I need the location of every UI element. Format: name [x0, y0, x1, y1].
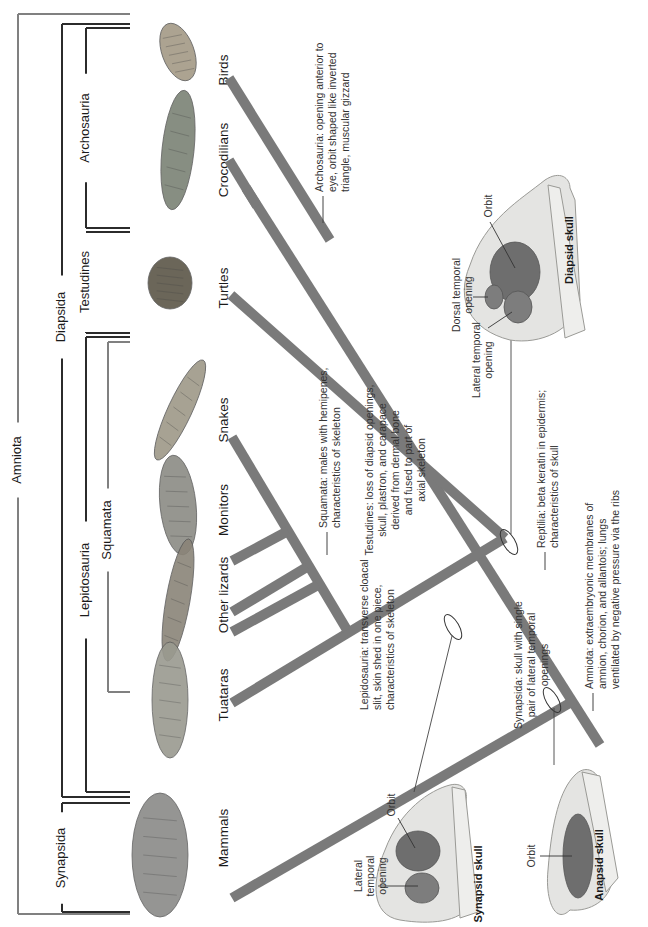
- lepidosauria-note: Lepidosauria: transverse cloacalslit, sk…: [358, 559, 396, 710]
- annotation-text: Amniota: extraembryonic membranes ofamni…: [583, 490, 621, 689]
- animal-body: [132, 793, 188, 917]
- animal-body: [146, 355, 214, 465]
- taxon-label-crocodilians: Crocodilians: [216, 123, 231, 198]
- diapsid-skull-title: Diapsid skull: [563, 216, 575, 284]
- annotation-line: skull, plastron, and carapace: [376, 403, 388, 537]
- annotation-line: openings: [538, 644, 550, 687]
- taxon-label-turtles: Turtles: [216, 267, 231, 308]
- skull-part-line: Orbit: [525, 845, 537, 868]
- skull-part-line: Dorsal temporal: [450, 258, 462, 332]
- bird-icon: [153, 18, 204, 85]
- skull-part-line: Orbit: [482, 195, 494, 218]
- lateral-temporal-label: Lateral temporalopening: [470, 322, 494, 398]
- skull-part-line: Lateral temporal: [470, 322, 482, 398]
- mammal-icon: [132, 793, 188, 917]
- taxon-label-mammals: Mammals: [216, 809, 231, 868]
- branch-croc-branch: [229, 160, 257, 206]
- synapsida-note: Synapsida: skull with singlepair of late…: [512, 601, 550, 729]
- taxon-labels: BirdsCrocodiliansTurtlesSnakesMonitorsOt…: [216, 54, 231, 867]
- orbit-label: Orbit: [385, 794, 397, 817]
- skull-part-line: Orbit: [385, 794, 397, 817]
- animal-body: [156, 89, 200, 212]
- annotation-line: Archosauria: opening anterior to: [313, 42, 325, 192]
- animal-illustrations: [132, 18, 214, 917]
- branch-lizard-branch-1: [232, 567, 307, 612]
- tuatara-icon: [152, 642, 188, 758]
- snake-icon: [146, 355, 214, 465]
- amniota-note: Amniota: extraembryonic membranes ofamni…: [583, 490, 621, 711]
- annotation-line: Lepidosauria: transverse cloacal: [358, 559, 370, 710]
- annotation-line: ventilated by negative pressure via the …: [609, 490, 621, 689]
- clade-label-squamata: Squamata: [99, 500, 114, 560]
- taxon-label-other-lizards: Other lizards: [216, 556, 231, 633]
- orbit-label: Orbit: [482, 195, 494, 218]
- turtle-icon: [148, 257, 192, 309]
- skull-part-line: Lateral: [352, 860, 364, 892]
- annotation-line: Synapsida: skull with single: [512, 601, 524, 729]
- anapsid-skull: OrbitAnapsid skull: [525, 770, 618, 915]
- clade-amniota: Amniota: [9, 14, 130, 914]
- annotation-line: derived from dermal bone: [389, 410, 401, 530]
- cladogram-figure: AmniotaSynapsidaDiapsidaArchosauriaTestu…: [0, 0, 648, 927]
- annotation-line: characteristics of skull: [548, 445, 560, 548]
- synapsida-node-marker: [441, 612, 465, 642]
- animal-body: [155, 453, 201, 556]
- annotation-line: characteristics of skeleton: [330, 407, 342, 528]
- clade-label-archosauria: Archosauria: [77, 93, 92, 163]
- annotation-line: slit, skin shed in one piece,: [371, 585, 383, 711]
- skull-part-line: opening: [482, 341, 494, 379]
- annotation-line: amnion, chorion, and allantois; lungs: [596, 519, 608, 689]
- testudines-note: Testudines: loss of diapsid openings,sku…: [363, 384, 427, 555]
- clade-label-testudines: Testudines: [77, 250, 92, 313]
- animal-body: [155, 537, 200, 663]
- taxon-label-monitors: Monitors: [216, 484, 231, 536]
- annotation-line: Amniota: extraembryonic membranes of: [583, 503, 595, 689]
- lateral-temporal-opening: [504, 291, 532, 323]
- annotation-text: Archosauria: opening anterior toeye, orb…: [313, 42, 351, 192]
- annotation-line: Testudines: loss of diapsid openings,: [363, 384, 375, 555]
- synapsid-skull: OrbitLateraltemporalopeningSynapsid skul…: [352, 784, 484, 922]
- archosauria-note: Archosauria: opening anterior toeye, orb…: [313, 42, 351, 223]
- annotation-text: Synapsida: skull with singlepair of late…: [512, 601, 550, 729]
- lateral-temporal-opening: [405, 873, 439, 903]
- diapsid-skull: OrbitDorsal temporalopeningLateral tempo…: [450, 175, 585, 398]
- cladogram-svg: AmniotaSynapsidaDiapsidaArchosauriaTestu…: [0, 0, 648, 927]
- reptilia-note: Reptilia: beta keratin in epidermis;char…: [535, 390, 560, 570]
- lateral-temporal-label: Lateraltemporalopening: [352, 856, 388, 897]
- annotation-line: eye, orbit shaped like inverted: [326, 52, 338, 192]
- clade-lepidosauria: Lepidosauria: [77, 337, 130, 792]
- annotation-line: Squamata: males with hemipenes,: [317, 368, 329, 529]
- annotation-line: axial skeleton: [415, 438, 427, 502]
- clade-label-synapsida: Synapsida: [53, 827, 68, 888]
- anapsid-skull-title: Anapsid skull: [593, 829, 605, 901]
- annotation-text: Lepidosauria: transverse cloacalslit, sk…: [358, 559, 396, 710]
- taxon-label-tuataras: Tuataras: [216, 668, 231, 721]
- clade-label-amniota: Amniota: [9, 435, 24, 483]
- clade-archosauria: Archosauria: [77, 28, 130, 228]
- clade-label-diapsida: Diapsida: [53, 291, 68, 342]
- animal-body: [153, 18, 204, 85]
- annotation-line: characteristics of skeleton: [384, 589, 396, 710]
- animal-body: [148, 257, 192, 309]
- skull-part-line: temporal: [364, 856, 376, 897]
- monitor-lizard-icon: [155, 453, 201, 556]
- taxon-label-snakes: Snakes: [216, 397, 231, 442]
- synapsid-skull-title: Synapsid skull: [472, 845, 484, 922]
- annotation-line: pair of lateral temporal: [525, 613, 537, 717]
- clade-brackets: AmniotaSynapsidaDiapsidaArchosauriaTestu…: [9, 14, 130, 914]
- annotation-line: and fused to part of: [402, 425, 414, 516]
- annotation-text: Reptilia: beta keratin in epidermis;char…: [535, 390, 560, 548]
- annotations: Archosauria: opening anterior toeye, orb…: [313, 42, 621, 728]
- branch-monitor-branch: [232, 531, 288, 561]
- clade-squamata: Squamata: [99, 342, 130, 692]
- orbit-opening: [396, 831, 440, 871]
- clade-testudines: Testudines: [77, 232, 130, 333]
- skull-part-line: opening: [462, 276, 474, 314]
- clade-synapsida: Synapsida: [53, 803, 130, 912]
- orbit-label: Orbit: [525, 845, 537, 868]
- animal-body: [152, 642, 188, 758]
- clade-label-lepidosauria: Lepidosauria: [77, 542, 92, 617]
- crocodile-icon: [156, 89, 200, 212]
- annotation-text: Testudines: loss of diapsid openings,sku…: [363, 384, 427, 555]
- lizard-icon: [155, 537, 200, 663]
